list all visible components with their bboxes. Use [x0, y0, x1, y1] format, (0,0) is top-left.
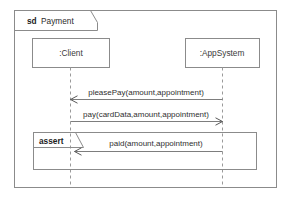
- frame-keyword: sd: [27, 16, 37, 26]
- lifeline-label-appsystem: :AppSystem: [200, 48, 245, 58]
- sequence-diagram-canvas: sd Payment :Client :AppSystem pleasePay(…: [0, 0, 292, 197]
- message-label-3: paid(amount,appointment): [109, 139, 203, 148]
- fragment-operator-label: assert: [39, 136, 64, 146]
- diagram-svg: sd Payment :Client :AppSystem pleasePay(…: [0, 0, 292, 197]
- lifeline-label-client: :Client: [59, 48, 83, 58]
- message-label-2: pay(cardData,amount,appointment): [83, 110, 209, 119]
- message-label-1: pleasePay(amount,appointment): [88, 88, 204, 97]
- frame-name: Payment: [41, 16, 74, 26]
